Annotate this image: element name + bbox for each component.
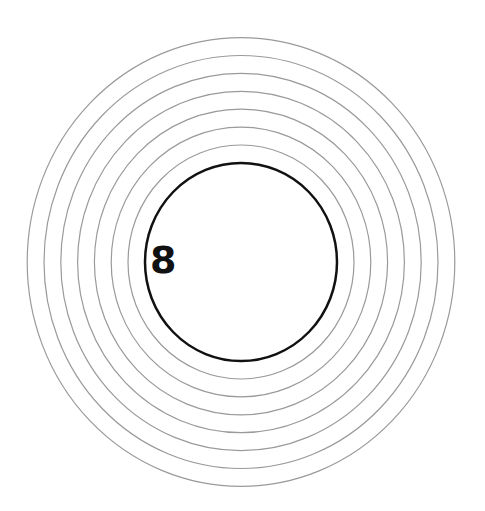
ring <box>61 73 421 450</box>
outer-rings <box>27 38 455 487</box>
number-label: 8 <box>150 240 176 280</box>
ring <box>27 38 455 487</box>
concentric-rings-diagram <box>0 0 485 511</box>
ring <box>78 91 405 432</box>
ring <box>44 56 438 469</box>
ring <box>94 109 387 415</box>
